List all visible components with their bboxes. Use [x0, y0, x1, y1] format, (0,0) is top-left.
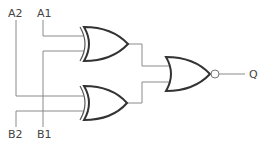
- label-b2: B2: [8, 128, 23, 141]
- logic-circuit-diagram: A2 A1 B2 B1 Q: [0, 0, 267, 148]
- label-a2: A2: [8, 7, 23, 20]
- label-a1: A1: [37, 7, 52, 20]
- nor-inversion-bubble: [211, 70, 219, 78]
- xor-gate-top: [80, 27, 128, 61]
- label-q: Q: [249, 68, 258, 81]
- wire-xor-top-out: [128, 44, 170, 66]
- nor-gate: [166, 57, 219, 91]
- wire-b2: [16, 111, 84, 127]
- label-b1: B1: [37, 128, 52, 141]
- wire-a1: [43, 20, 84, 36]
- wire-xor-bottom-out: [127, 82, 170, 103]
- xor-gate-bottom: [80, 86, 127, 120]
- wire-b1: [43, 51, 84, 127]
- wire-a2: [16, 20, 84, 96]
